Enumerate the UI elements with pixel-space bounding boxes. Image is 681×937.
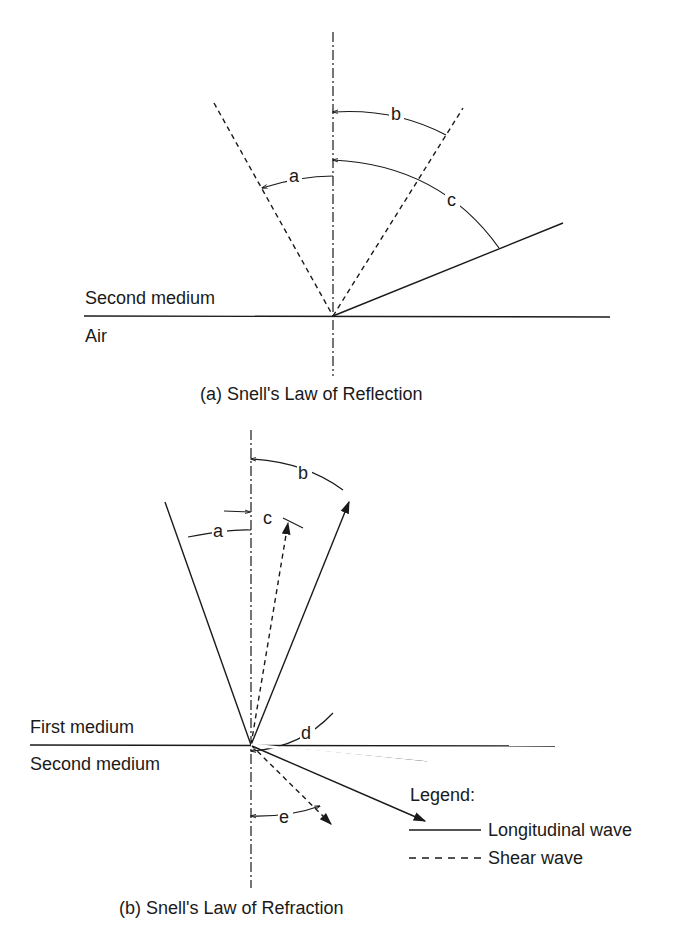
refraction-angle-a-label: a	[213, 521, 224, 541]
refraction-upper-medium-label: First medium	[30, 717, 134, 737]
reflection-diagram	[84, 32, 610, 376]
refraction-angle-c-label: c	[263, 508, 272, 528]
angle-c-mark-left	[224, 511, 250, 512]
reflected-longitudinal-wave	[251, 502, 349, 745]
reflected-longitudinal-wave	[333, 223, 563, 316]
reflected-shear-wave	[251, 523, 288, 745]
legend-item-longitudinal: Longitudinal wave	[488, 820, 632, 840]
interface-line	[30, 745, 555, 746]
angle-c-arc	[333, 160, 499, 248]
angle-c-mark-right	[283, 518, 303, 528]
interface-line	[84, 316, 610, 317]
legend-title: Legend:	[410, 785, 475, 805]
incident-shear-wave	[214, 103, 333, 316]
reflection-lower-medium-label: Air	[85, 326, 107, 346]
refraction-lower-medium-label: Second medium	[30, 754, 160, 774]
refraction-caption: (b) Snell's Law of Refraction	[119, 898, 344, 918]
reflection-angle-a-label: a	[289, 166, 300, 186]
reflection-angle-c-label: c	[447, 190, 456, 210]
reflected-shear-wave	[333, 108, 463, 316]
refracted-longitudinal-drawn	[252, 746, 425, 821]
legend: Legend: Longitudinal wave Shear wave	[409, 785, 632, 868]
refraction-angle-d-label: d	[301, 723, 311, 743]
reflection-caption: (a) Snell's Law of Reflection	[200, 384, 423, 404]
legend-item-shear: Shear wave	[488, 848, 583, 868]
snells-law-diagram: a b c Second medium Air (a) Snell's Law …	[0, 0, 681, 937]
refraction-angle-b-label: b	[298, 463, 308, 483]
reflection-angle-b-label: b	[391, 104, 401, 124]
incident-longitudinal-wave	[165, 502, 251, 745]
reflection-upper-medium-label: Second medium	[85, 288, 215, 308]
refraction-angle-e-label: e	[279, 807, 289, 827]
